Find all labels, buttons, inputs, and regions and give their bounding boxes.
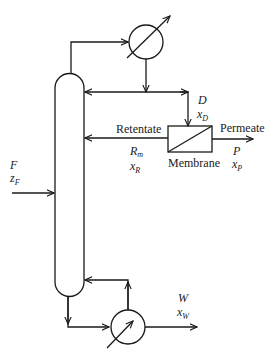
- bottoms-composition: xW: [176, 305, 190, 321]
- retentate-label: Retentate: [116, 122, 161, 136]
- reboiler: [107, 310, 145, 348]
- retentate-symbol: Rm: [129, 144, 143, 159]
- membrane: [168, 126, 212, 152]
- permeate-symbol: P: [232, 144, 241, 158]
- permeate-composition: xP: [231, 157, 242, 173]
- condenser-coolant-arrow-icon: [127, 16, 170, 58]
- distillate-composition: xD: [196, 107, 208, 123]
- distillate-symbol: D: [197, 93, 207, 107]
- condenser-icon: [129, 25, 163, 59]
- bottoms-symbol: W: [178, 291, 189, 305]
- overhead-vapor-line: [71, 42, 128, 73]
- distillation-column: [55, 74, 84, 297]
- permeate-label: Permeate: [220, 121, 265, 135]
- feed-composition: zF: [9, 171, 20, 187]
- condenser: [127, 16, 170, 59]
- distillate-line: [146, 92, 188, 126]
- boilup-line: [85, 280, 128, 310]
- process-flow-diagram: D xD Membrane Retentate Rm xR Permeate P…: [0, 0, 276, 353]
- bottoms-liquid-line: [68, 296, 109, 327]
- retentate-composition: xR: [129, 159, 140, 175]
- membrane-diagonal: [168, 126, 212, 152]
- feed-symbol: F: [9, 158, 18, 172]
- membrane-label: Membrane: [168, 156, 220, 170]
